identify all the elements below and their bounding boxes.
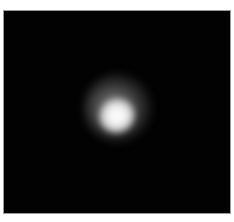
- image-frame: [3, 10, 231, 214]
